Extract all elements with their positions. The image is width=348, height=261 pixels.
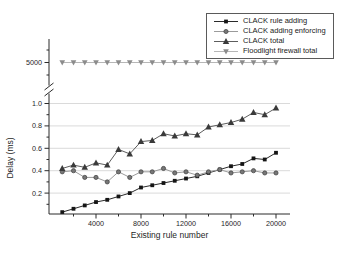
x-tick-label: 16000: [221, 219, 241, 228]
circle-marker-icon: [161, 166, 165, 170]
circle-marker-icon: [94, 175, 98, 179]
square-marker-icon: [173, 179, 177, 183]
axes: [45, 39, 291, 219]
circle-marker-icon: [229, 171, 233, 175]
triangle-down-marker-icon: [212, 47, 240, 56]
circle-marker-icon: [195, 173, 199, 177]
triangle-up-marker-icon: [250, 109, 256, 115]
x-tick-label: 4000: [88, 219, 104, 228]
square-marker-icon: [150, 183, 154, 187]
series-clack-rule-adding: [60, 151, 278, 214]
circle-marker-icon: [105, 180, 109, 184]
triangle-up-marker-icon: [93, 159, 99, 165]
square-marker-icon: [229, 164, 233, 168]
circle-marker-icon: [240, 170, 244, 174]
square-marker-icon: [184, 177, 188, 181]
square-marker-icon: [117, 195, 121, 199]
y-tick-label-5000: 5000: [26, 58, 42, 67]
legend-label: CLACK rule adding: [243, 16, 307, 26]
square-marker-icon: [274, 151, 278, 155]
y-tick-label: 0.4: [32, 166, 42, 175]
triangle-up-marker-icon: [115, 146, 121, 152]
circle-marker-icon: [150, 170, 154, 174]
circle-marker-icon: [173, 171, 177, 175]
square-marker-icon: [263, 158, 267, 162]
y-tick-label: 1.0: [32, 99, 42, 108]
triangle-up-marker-icon: [70, 162, 76, 168]
legend-item-clack-adding-enforcing: CLACK adding enforcing: [212, 26, 331, 36]
x-tick-label: 20000: [266, 219, 286, 228]
legend: CLACK rule adding CLACK adding enforcing…: [206, 13, 334, 59]
circle-marker-icon: [274, 171, 278, 175]
square-marker-icon: [72, 207, 76, 211]
square-marker-icon: [240, 162, 244, 166]
series-floodlight-firewall-total: [59, 60, 278, 65]
square-marker-icon: [212, 17, 240, 26]
square-marker-icon: [60, 210, 64, 214]
circle-marker-icon: [212, 27, 240, 36]
circle-marker-icon: [139, 170, 143, 174]
circle-marker-icon: [218, 167, 222, 171]
circle-marker-icon: [128, 175, 132, 179]
tick-labels: 400080001200016000200000.20.40.60.81.050…: [26, 58, 286, 228]
square-marker-icon: [94, 200, 98, 204]
square-marker-icon: [105, 198, 109, 202]
y-tick-label: 0.8: [32, 121, 42, 130]
series-line: [62, 108, 276, 168]
circle-marker-icon: [83, 175, 87, 179]
circle-marker-icon: [116, 170, 120, 174]
y-tick-label: 0.6: [32, 144, 42, 153]
circle-marker-icon: [224, 29, 228, 33]
triangle-up-marker-icon: [160, 130, 166, 136]
x-axis-title: Existing rule number: [49, 230, 290, 240]
square-marker-icon: [83, 204, 87, 208]
y-axis-title: Delay (ms): [5, 137, 15, 178]
square-marker-icon: [252, 156, 256, 160]
triangle-up-marker-icon: [212, 37, 240, 46]
legend-item-clack-rule-adding: CLACK rule adding: [212, 16, 331, 26]
triangle-up-marker-icon: [273, 105, 279, 111]
square-marker-icon: [162, 181, 166, 185]
series-clack-total: [59, 105, 279, 171]
triangle-up-marker-icon: [149, 137, 155, 143]
legend-item-floodlight-firewall-total: Floodlight firewall total: [212, 46, 331, 56]
square-marker-icon: [139, 186, 143, 190]
y-tick-label: 0.2: [32, 189, 42, 198]
triangle-up-marker-icon: [239, 116, 245, 122]
x-tick-label: 8000: [133, 219, 149, 228]
square-marker-icon: [128, 191, 132, 195]
legend-item-clack-total: CLACK total: [212, 36, 331, 46]
triangle-up-marker-icon: [183, 130, 189, 136]
circle-marker-icon: [71, 169, 75, 173]
legend-label: CLACK total: [243, 36, 284, 46]
series-clack-adding-enforcing: [60, 166, 278, 184]
circle-marker-icon: [251, 169, 255, 173]
circle-marker-icon: [263, 171, 267, 175]
legend-label: CLACK adding enforcing: [243, 26, 326, 36]
circle-marker-icon: [206, 170, 210, 174]
square-marker-icon: [224, 19, 228, 23]
circle-marker-icon: [184, 170, 188, 174]
x-tick-label: 12000: [176, 219, 196, 228]
legend-label: Floodlight firewall total: [243, 46, 317, 56]
figure-canvas: 400080001200016000200000.20.40.60.81.050…: [0, 0, 348, 261]
